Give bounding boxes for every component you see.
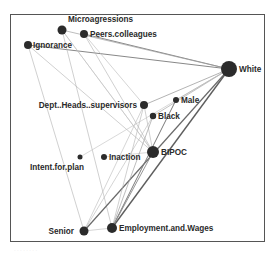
node-label: Male (181, 96, 200, 105)
node-senior (80, 227, 89, 236)
node-label: Intent.for.plan (30, 163, 84, 172)
node-label: Inaction (109, 153, 140, 162)
node-inaction (101, 154, 107, 160)
node-peers-colleagues (80, 30, 88, 38)
graph-labels: MicroagressionsPeers.colleaguesIgnorance… (30, 15, 262, 236)
node-label: Peers.colleagues (90, 30, 157, 39)
node-label: Dept..Heads..supervisors (39, 101, 138, 110)
node-intent-for-plan (78, 155, 83, 160)
figure-caption: · · · · · · · · (14, 247, 264, 253)
graph-edges (28, 30, 229, 231)
edge-11 (84, 105, 144, 231)
node-label: Ignorance (33, 41, 73, 50)
edge-22 (112, 116, 153, 228)
edge-8 (84, 34, 144, 105)
node-label: BIPOC (161, 148, 187, 157)
node-employment-and-wages (107, 223, 117, 233)
node-microagressions (58, 26, 67, 35)
node-dept--heads--supervisors (140, 101, 148, 109)
edge-3 (28, 45, 84, 231)
node-label: Microagressions (68, 15, 134, 24)
node-black (150, 113, 156, 119)
edge-4 (28, 45, 153, 152)
node-ignorance (24, 41, 32, 49)
node-male (173, 97, 179, 103)
node-bipoc (147, 146, 159, 158)
node-label: Black (158, 112, 180, 121)
node-white (221, 61, 237, 77)
edge-23 (112, 105, 144, 228)
node-label: Employment.and.Wages (119, 224, 214, 233)
edge-18 (84, 116, 153, 231)
node-label: White (239, 65, 262, 74)
node-label: Senior (49, 227, 75, 236)
network-graph: MicroagressionsPeers.colleaguesIgnorance… (0, 0, 278, 255)
edge-21 (112, 152, 153, 228)
edge-5 (62, 30, 112, 228)
